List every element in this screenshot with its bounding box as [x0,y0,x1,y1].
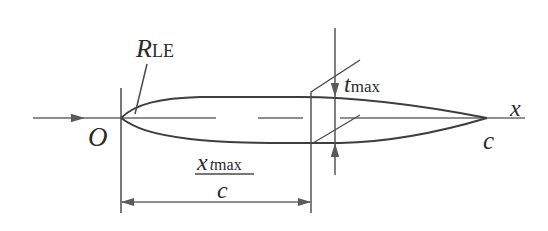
t-symbol: t [344,71,351,97]
leading-edge-radius-label: RLE [136,36,174,62]
x-axis-label: x [510,96,521,120]
origin-label: O [88,124,108,151]
x-symbol: x [197,149,208,175]
tmax-subscript-max: max [214,156,242,173]
r-symbol: R [136,34,152,63]
position-numerator: xtmax [197,150,242,174]
le-subscript: LE [152,41,174,61]
thickness-lower-leader [313,115,360,143]
airfoil-upper-surface [121,97,487,118]
chord-end-label: c [483,128,494,153]
max-subscript: max [351,77,380,96]
max-thickness-label: tmax [344,72,380,96]
airfoil-lower-surface [121,118,487,143]
position-denominator: c [217,178,228,202]
airfoil-drawing [0,0,548,231]
airfoil-diagram: RLE O tmax x c xtmax c [0,0,548,231]
